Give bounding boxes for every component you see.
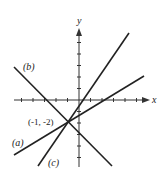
line-b-label: (b) xyxy=(23,61,35,73)
line-c-label: (c) xyxy=(48,157,60,169)
x-axis-label: x xyxy=(151,94,157,105)
y-axis-label: y xyxy=(76,15,82,26)
y-axis xyxy=(76,28,82,167)
intersection-label: (-1, -2) xyxy=(28,117,54,127)
line-a-label: (a) xyxy=(12,137,24,149)
coordinate-plane-diagram: x y (b) (a) (c) (-1, -2) xyxy=(0,0,168,178)
